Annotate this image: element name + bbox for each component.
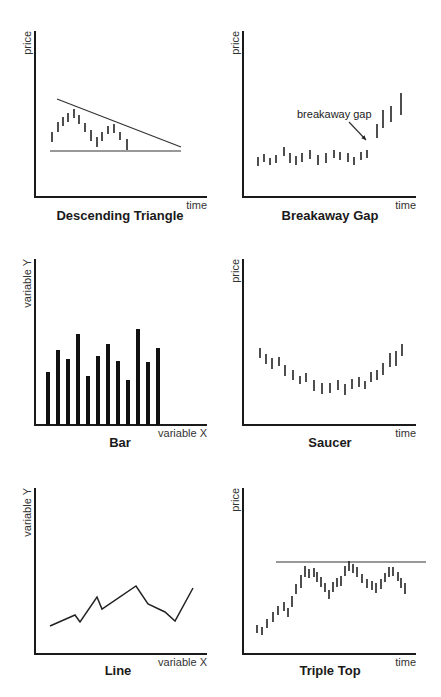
chart-title: Line	[105, 663, 132, 678]
bar	[66, 359, 70, 425]
y-axis-label: price	[21, 31, 33, 55]
trend-line	[57, 99, 181, 147]
annotation-label: breakaway gap	[297, 108, 372, 120]
x-axis-label: time	[395, 199, 416, 211]
x-axis-label: time	[186, 199, 207, 211]
chart-breakaway-gap: pricetimeBreakaway Gapbreakaway gap	[229, 31, 416, 223]
axes	[243, 259, 416, 425]
bar	[46, 372, 50, 425]
x-axis-label: time	[395, 656, 416, 668]
chart-descending-triangle: pricetimeDescending Triangle	[21, 31, 207, 223]
data-line	[50, 586, 193, 626]
chart-line: variable Yvariable XLine	[21, 487, 208, 678]
bar	[96, 356, 100, 425]
y-axis-label: variable Y	[21, 487, 33, 536]
chart-title: Breakaway Gap	[282, 208, 379, 223]
chart-title: Bar	[109, 435, 131, 450]
axes	[35, 259, 207, 425]
bar	[106, 344, 110, 425]
bar	[86, 376, 90, 425]
x-axis-label: variable X	[158, 427, 208, 439]
chart-title: Saucer	[308, 435, 351, 450]
y-axis-label: price	[229, 488, 241, 512]
y-axis-label: price	[229, 259, 241, 283]
bar	[116, 361, 120, 425]
axes	[35, 31, 207, 197]
chart-triple-top: pricetimeTriple Top	[229, 488, 426, 678]
bar	[76, 334, 80, 425]
chart-bar: variable Yvariable XBar	[21, 258, 208, 450]
x-axis-label: variable X	[158, 656, 208, 668]
y-axis-label: price	[229, 31, 241, 55]
axes	[243, 488, 416, 654]
bar	[156, 348, 160, 425]
chart-patterns-diagram: pricetimeDescending TrianglepricetimeBre…	[0, 0, 441, 697]
y-axis-label: variable Y	[21, 258, 33, 307]
chart-title: Triple Top	[299, 663, 360, 678]
x-axis-label: time	[395, 427, 416, 439]
bar	[126, 380, 130, 425]
bar	[56, 350, 60, 425]
axes	[35, 488, 207, 654]
bar	[146, 362, 150, 425]
chart-saucer: pricetimeSaucer	[229, 259, 416, 450]
chart-title: Descending Triangle	[56, 208, 183, 223]
bar	[136, 329, 140, 425]
